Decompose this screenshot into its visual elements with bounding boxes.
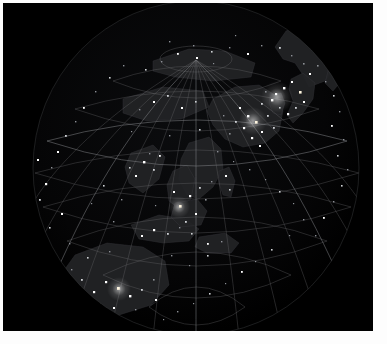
night-lights-image xyxy=(3,3,373,331)
globe-viewer xyxy=(0,0,387,344)
globe-canvas xyxy=(3,3,373,331)
globe-disc xyxy=(33,3,361,331)
globe-stage xyxy=(3,3,373,331)
